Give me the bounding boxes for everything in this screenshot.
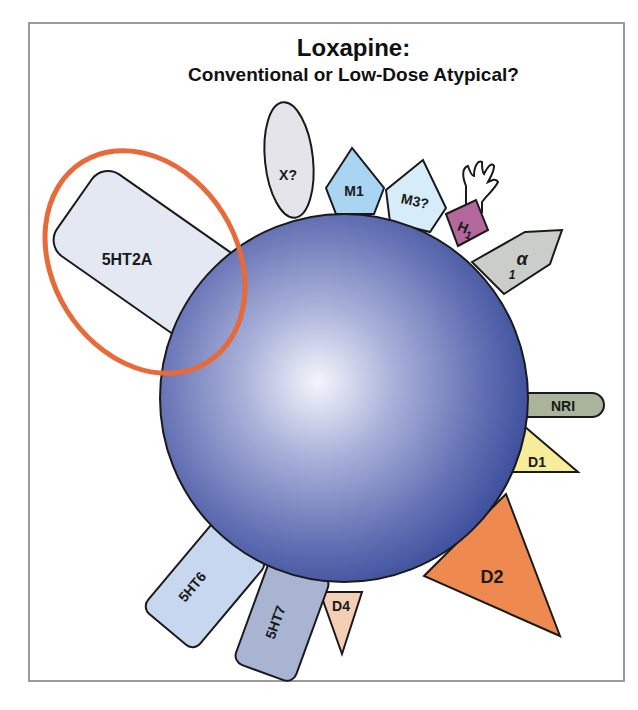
receptor-label-5ht2a: 5HT2A — [102, 251, 153, 268]
central-sphere — [160, 214, 528, 582]
receptor-label-alpha1-subscript: 1 — [509, 268, 516, 282]
receptor-label-nri: NRI — [551, 398, 575, 414]
receptor-label-d1: D1 — [528, 454, 546, 470]
receptor-d4: D4 — [320, 592, 362, 654]
receptor-x: X? — [259, 100, 319, 220]
receptor-label-d4: D4 — [332, 598, 350, 614]
receptor-diagram: 5HT2A X? M1 M3? H1 α 1 NRI D1 D2 — [0, 0, 638, 710]
receptor-label-m1: M1 — [344, 183, 364, 199]
receptor-label-d2: D2 — [480, 567, 503, 587]
receptor-label-x: X? — [279, 167, 297, 183]
receptor-h1: H1 — [446, 162, 498, 246]
receptor-m1: M1 — [326, 148, 384, 214]
alpha-symbol-icon: α — [516, 249, 528, 269]
